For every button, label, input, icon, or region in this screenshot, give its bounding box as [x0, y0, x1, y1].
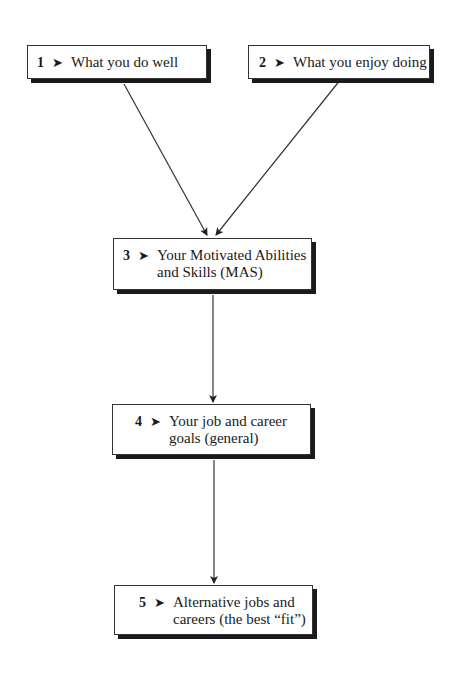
node-number: 4	[135, 413, 142, 430]
node-label: Your Motivated Abilities and Skills (MAS…	[157, 247, 306, 281]
node-number: 3	[123, 247, 130, 264]
node-label: What you enjoy doing	[293, 54, 427, 71]
bullet-arrow-icon: ➤	[154, 594, 165, 611]
bullet-arrow-icon: ➤	[138, 247, 149, 264]
edge-1-to-3	[124, 84, 207, 235]
node-label: Your job and career goals (general)	[169, 413, 287, 447]
bullet-arrow-icon: ➤	[52, 54, 63, 71]
edge-2-to-3	[216, 79, 341, 235]
node-label: Alternative jobs and careers (the best “…	[173, 594, 306, 628]
node-2: 2 ➤ What you enjoy doing	[248, 45, 430, 79]
bullet-arrow-icon: ➤	[150, 413, 161, 430]
bullet-arrow-icon: ➤	[274, 54, 285, 71]
node-number: 1	[37, 54, 44, 71]
node-4: 4 ➤ Your job and career goals (general)	[112, 404, 311, 455]
node-label: What you do well	[71, 54, 178, 71]
node-number: 2	[259, 54, 266, 71]
node-number: 5	[139, 594, 146, 611]
node-3: 3 ➤ Your Motivated Abilities and Skills …	[113, 238, 312, 290]
node-5: 5 ➤ Alternative jobs and careers (the be…	[114, 585, 313, 635]
connector-lines	[0, 0, 454, 675]
node-1: 1 ➤ What you do well	[27, 45, 207, 79]
